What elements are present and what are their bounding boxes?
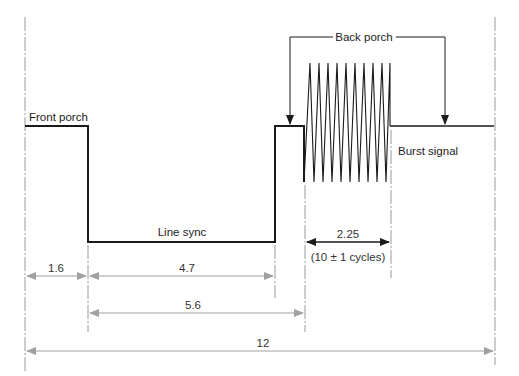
timing-diagram: Back porch Front porch Line sync Burst s… [0, 0, 519, 376]
burst-signal-label: Burst signal [398, 145, 458, 157]
dim-burst-cycles: (10 ± 1 cycles) [311, 251, 386, 263]
line-sync-label: Line sync [158, 226, 207, 238]
burst-oscillation [304, 63, 390, 182]
dim-line-sync-value: 4.7 [179, 262, 195, 274]
sync-pulse [25, 126, 304, 242]
back-porch-label: Back porch [335, 31, 393, 43]
dim-front-porch-value: 1.6 [48, 262, 64, 274]
dim-sync-to-burst-value: 5.6 [185, 299, 201, 311]
guide-lines [25, 17, 495, 373]
dim-burst-value: 2.25 [337, 228, 359, 240]
back-porch-bracket [290, 37, 445, 124]
front-porch-label: Front porch [29, 111, 88, 123]
dim-total-value: 12 [257, 337, 270, 349]
